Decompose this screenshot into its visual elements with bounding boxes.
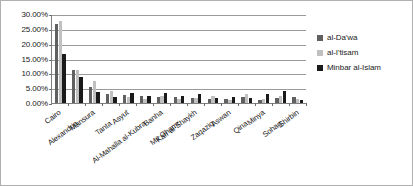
x-axis-tick-label: Mit Ghamr (80, 120, 181, 186)
x-axis-tick (306, 103, 307, 106)
bar-group (154, 15, 171, 103)
x-axis-tick (238, 103, 239, 106)
x-axis-tick (272, 103, 273, 106)
x-axis-tick-label: Banha (63, 109, 164, 186)
bar-group (69, 15, 86, 103)
chart-screenshot: 30.00%25.00%20.00%15.00%10.00%5.00%0.00%… (0, 0, 413, 186)
x-axis-tick-label: Zaqaziq (114, 120, 215, 186)
legend-label: al-I'tisam (327, 48, 358, 57)
x-axis-tick (153, 103, 154, 106)
legend-label: Minbar al-Islam (327, 63, 381, 72)
x-axis-tick-label: Kafr al-Shaykh (97, 109, 198, 186)
x-axis-tick (119, 103, 120, 106)
x-axis-tick-label: Sohag (182, 120, 283, 186)
gridline (52, 104, 306, 105)
bar-group (238, 15, 255, 103)
bar (249, 98, 252, 103)
x-axis-tick (289, 103, 290, 106)
x-axis-tick (102, 103, 103, 106)
x-axis-tick (170, 103, 171, 106)
chart-legend: al-Da'waal-I'tisamMinbar al-Islam (317, 30, 411, 75)
plot-area (51, 15, 306, 104)
x-axis-tick-label: Al-Mahalla al-Kubra (46, 120, 147, 186)
legend-item[interactable]: al-Da'wa (317, 30, 411, 45)
x-axis-tick-label: Shirbin (199, 109, 300, 186)
legend-label: al-Da'wa (327, 33, 357, 42)
bar (113, 97, 116, 103)
bar-group (171, 15, 188, 103)
bar-group (188, 15, 205, 103)
y-axis-tick-label: 15.00% (21, 56, 48, 64)
bar-group (221, 15, 238, 103)
legend-swatch-icon (317, 50, 323, 56)
x-axis-tick (204, 103, 205, 106)
bar (300, 100, 303, 103)
bar (130, 93, 133, 103)
bar-group (52, 15, 69, 103)
x-axis-tick (221, 103, 222, 106)
y-axis-tick-label: 5.00% (26, 85, 48, 93)
bar (266, 94, 269, 103)
bar (96, 92, 99, 103)
y-axis-tick-label: 0.00% (26, 100, 48, 108)
bar (79, 77, 82, 103)
bar-group (204, 15, 221, 103)
y-axis-tick (49, 104, 52, 105)
y-axis-tick-label: 10.00% (21, 70, 48, 78)
x-axis-tick (255, 103, 256, 106)
x-axis-tick-label: Aswan (131, 109, 232, 186)
bar (215, 98, 218, 103)
bar-group (120, 15, 137, 103)
bar-group (137, 15, 154, 103)
y-axis-tick-label: 25.00% (21, 26, 48, 34)
bar-group (289, 15, 306, 103)
y-axis-tick-label: 30.00% (21, 11, 48, 19)
y-axis-labels: 30.00%25.00%20.00%15.00%10.00%5.00%0.00% (1, 1, 48, 186)
x-axis-tick-label: Minya (165, 109, 266, 186)
legend-item[interactable]: Minbar al-Islam (317, 60, 411, 75)
x-axis-tick (136, 103, 137, 106)
x-axis-tick-label: Qina (148, 120, 249, 186)
x-axis-tick (85, 103, 86, 106)
legend-item[interactable]: al-I'tisam (317, 45, 411, 60)
bar-group (86, 15, 103, 103)
bar (283, 91, 286, 103)
bar-groups (52, 15, 306, 103)
bar (198, 94, 201, 103)
bar (232, 97, 235, 103)
bar (62, 54, 65, 103)
bar-group (272, 15, 289, 103)
x-axis-tick (68, 103, 69, 106)
bar-group (103, 15, 120, 103)
bar (147, 96, 150, 103)
bar-group (255, 15, 272, 103)
bar (181, 96, 184, 103)
legend-swatch-icon (317, 35, 323, 41)
x-axis-tick (187, 103, 188, 106)
legend-swatch-icon (317, 65, 323, 71)
bar (164, 93, 167, 103)
y-axis-tick-label: 20.00% (21, 41, 48, 49)
